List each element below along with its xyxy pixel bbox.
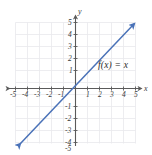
function-graph-figure: -5 -4 -3 -2 -1 1 2 3 4 5 5 4 3 2 1 -1 -2…	[0, 0, 152, 155]
x-tick-label--1: -1	[58, 91, 64, 99]
y-axis-label: y	[78, 8, 82, 16]
x-tick-label--2: -2	[46, 91, 52, 99]
function-annotation-label: f(x) = x	[98, 61, 128, 71]
x-axis-label: x	[144, 85, 148, 93]
y-axis	[74, 16, 78, 146]
y-tick-label--1: -1	[65, 103, 71, 111]
x-tick-label--5: -5	[10, 91, 16, 99]
graph-canvas	[0, 0, 152, 155]
y-tick-label-5: 5	[68, 19, 72, 27]
x-tick-label-3: 3	[110, 91, 114, 99]
function-line-fx-equals-x	[20, 24, 134, 144]
y-tick-label-4: 4	[68, 31, 72, 39]
x-tick-label-4: 4	[122, 91, 126, 99]
x-tick-label--3: -3	[34, 91, 40, 99]
x-tick-label-5: 5	[134, 91, 138, 99]
y-tick-label--2: -2	[65, 115, 71, 123]
x-tick-label--4: -4	[22, 91, 28, 99]
y-tick-label-1: 1	[69, 67, 73, 75]
x-tick-label-1: 1	[86, 91, 90, 99]
y-tick-label-3: 3	[68, 43, 72, 51]
y-tick-label-2: 2	[68, 55, 72, 63]
x-tick-label-2: 2	[98, 91, 102, 99]
y-tick-label--3: -3	[65, 127, 71, 135]
y-tick-label--5: -5	[65, 145, 71, 153]
